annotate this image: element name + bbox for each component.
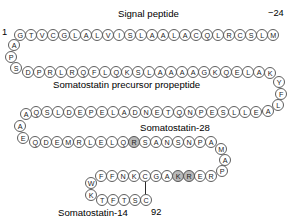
residue-r60: P bbox=[195, 106, 207, 118]
residue-r100: E bbox=[194, 170, 206, 182]
residue-r67: A bbox=[118, 106, 130, 118]
residue-r116: C bbox=[140, 194, 152, 206]
residue-r63: T bbox=[162, 106, 174, 118]
residue-r105: C bbox=[139, 170, 151, 182]
label-somatostatin-precursor-propeptide: Somatostatin precursor propeptide bbox=[53, 79, 200, 90]
residue-r107: N bbox=[117, 170, 129, 182]
disulfide-bond-line bbox=[145, 181, 146, 195]
residue-number-92: 92 bbox=[151, 207, 161, 217]
residue-r98: P bbox=[216, 165, 228, 177]
residue-r57: L bbox=[228, 106, 240, 118]
residue-r104: G bbox=[150, 170, 162, 182]
residue-r25: A bbox=[8, 39, 20, 51]
residue-r101: R bbox=[183, 170, 195, 182]
residue-r77: A bbox=[14, 120, 26, 132]
somatostatin-precursor-diagram: Signal peptide −24 1 Somatostatin precur… bbox=[0, 0, 299, 224]
residue-r24: M bbox=[267, 29, 279, 41]
label-signal-peptide: Signal peptide bbox=[118, 8, 179, 19]
residue-r106: K bbox=[128, 170, 140, 182]
residue-r65: N bbox=[140, 106, 152, 118]
label-somatostatin-14: Somatostatin-14 bbox=[58, 207, 128, 218]
residue-r69: E bbox=[96, 106, 108, 118]
residue-r27: S bbox=[10, 62, 22, 74]
residue-r110: W bbox=[85, 177, 97, 189]
residue-r58: S bbox=[217, 106, 229, 118]
residue-r54: A bbox=[262, 105, 274, 117]
residue-r74: S bbox=[41, 106, 53, 118]
residue-r68: L bbox=[107, 106, 119, 118]
residue-number-minus-24: −24 bbox=[268, 8, 284, 18]
residue-number-1: 1 bbox=[2, 27, 7, 37]
residue-r78: E bbox=[17, 132, 29, 144]
residue-r61: N bbox=[184, 106, 196, 118]
residue-r71: E bbox=[74, 106, 86, 118]
residue-r72: D bbox=[63, 106, 75, 118]
residue-r76: A bbox=[20, 108, 32, 120]
residue-r59: E bbox=[206, 106, 218, 118]
residue-r99: R bbox=[205, 170, 217, 182]
residue-r56: L bbox=[239, 106, 251, 118]
residue-r66: D bbox=[129, 106, 141, 118]
residue-r70: P bbox=[85, 106, 97, 118]
residue-r109: F bbox=[95, 170, 107, 182]
residue-r108: F bbox=[106, 170, 118, 182]
residue-r103: A bbox=[161, 170, 173, 182]
label-somatostatin-28: Somatostatin-28 bbox=[140, 122, 210, 133]
residue-r64: E bbox=[151, 106, 163, 118]
residue-r51: Y bbox=[273, 76, 285, 88]
residue-r102: K bbox=[172, 170, 184, 182]
residue-r62: Q bbox=[173, 106, 185, 118]
residue-r73: L bbox=[52, 106, 64, 118]
residue-r55: E bbox=[250, 106, 262, 118]
